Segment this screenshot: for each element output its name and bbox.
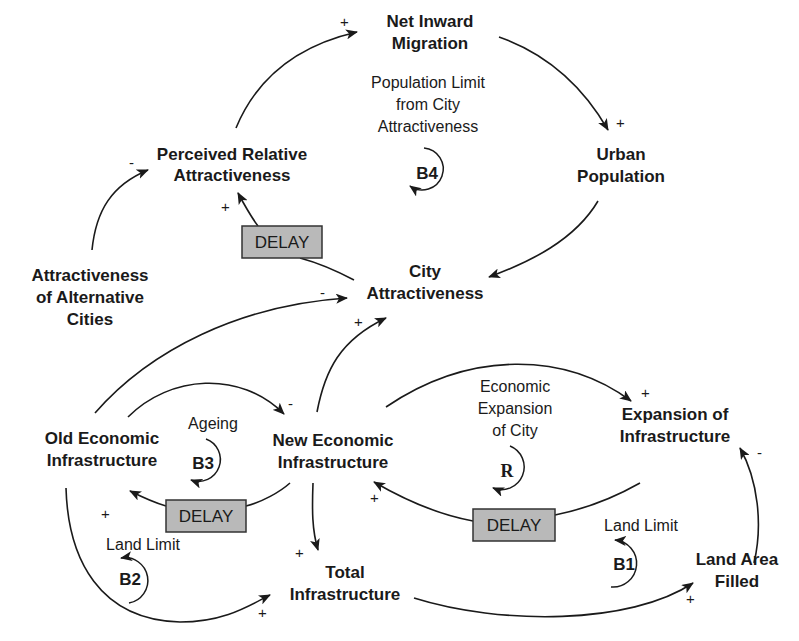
- link-new-econ-to-total: [313, 483, 318, 550]
- link-delay-to-old-econ: [130, 491, 166, 506]
- link-new-econ-to-city-attractiveness: [317, 318, 386, 412]
- loop-b1: Land Limit B1: [604, 517, 678, 587]
- link-expansion-to-delay: [555, 483, 640, 515]
- svg-text:Economic: Economic: [480, 378, 550, 395]
- link-urban-population-to-city-attractiveness: [489, 201, 598, 277]
- node-expansion-of-infrastructure: Expansion of Infrastructure: [620, 405, 731, 446]
- polarity-delay-to-old-econ: +: [101, 505, 110, 522]
- svg-text:of Alternative: of Alternative: [36, 288, 144, 307]
- svg-text:Filled: Filled: [715, 572, 759, 591]
- node-attractiveness-of-alternative-cities: Attractiveness of Alternative Cities: [31, 266, 148, 329]
- node-urban-population: Urban Population: [577, 145, 665, 186]
- link-alternative-cities-to-perceived: [92, 170, 148, 250]
- svg-text:Cities: Cities: [67, 310, 113, 329]
- svg-text:from City: from City: [396, 96, 460, 113]
- svg-text:Land Limit: Land Limit: [106, 536, 180, 553]
- polarity-new-econ-to-total: +: [295, 544, 304, 561]
- svg-text:Infrastructure: Infrastructure: [290, 585, 401, 604]
- delay-label: DELAY: [179, 507, 234, 526]
- svg-text:New Economic: New Economic: [273, 431, 394, 450]
- svg-text:Attractiveness: Attractiveness: [173, 166, 290, 185]
- svg-text:Ageing: Ageing: [188, 415, 238, 432]
- svg-text:Infrastructure: Infrastructure: [278, 453, 389, 472]
- svg-text:B3: B3: [192, 454, 214, 473]
- delay-box-expansion-to-new-econ: DELAY: [473, 509, 555, 541]
- link-old-econ-to-city-attractiveness: [95, 298, 347, 413]
- svg-text:of City: of City: [492, 422, 537, 439]
- link-land-area-to-expansion: [740, 448, 758, 563]
- loop-r: Economic Expansion of City R: [478, 378, 553, 490]
- svg-text:Land Area: Land Area: [696, 550, 779, 569]
- link-delay-to-new-econ: [374, 482, 473, 521]
- causal-loop-diagram: + + + - - + - + + + + + + - DELAY DELAY …: [0, 0, 799, 641]
- polarity-land-to-expansion: -: [757, 444, 762, 461]
- link-old-econ-to-new-econ: [128, 383, 284, 417]
- polarity-old-econ-to-city: -: [320, 284, 325, 301]
- svg-text:B2: B2: [119, 570, 141, 589]
- delay-box-city-to-perceived: DELAY: [242, 226, 322, 258]
- polarity-old-econ-to-total: +: [258, 604, 267, 621]
- polarity-new-econ-to-expansion: +: [641, 384, 650, 401]
- polarity-delay-to-perceived: +: [221, 198, 230, 215]
- svg-text:Land Limit: Land Limit: [604, 517, 678, 534]
- svg-text:Attractiveness: Attractiveness: [378, 118, 478, 135]
- link-city-attractiveness-to-delay: [300, 258, 354, 280]
- svg-text:Total: Total: [325, 563, 364, 582]
- loop-b4: Population Limit from City Attractivenes…: [371, 74, 485, 190]
- node-old-economic-infrastructure: Old Economic Infrastructure: [45, 429, 159, 470]
- loop-b2: Land Limit B2: [106, 536, 180, 603]
- svg-text:R: R: [501, 461, 515, 481]
- loop-b3: Ageing B3: [188, 415, 238, 481]
- node-city-attractiveness: City Attractiveness: [366, 262, 483, 303]
- svg-text:Attractiveness: Attractiveness: [366, 284, 483, 303]
- svg-text:Attractiveness: Attractiveness: [31, 266, 148, 285]
- svg-text:Infrastructure: Infrastructure: [47, 451, 158, 470]
- link-perceived-to-migration: [236, 32, 357, 128]
- polarity-perceived-to-migration: +: [340, 13, 349, 30]
- link-delay-to-perceived: [238, 193, 258, 226]
- polarity-alternative-to-perceived: -: [129, 154, 134, 171]
- polarity-migration-to-urban: +: [616, 114, 625, 131]
- node-land-area-filled: Land Area Filled: [696, 550, 779, 591]
- svg-text:Migration: Migration: [392, 34, 469, 53]
- polarity-old-to-new-econ: -: [288, 395, 293, 412]
- node-net-inward-migration: Net Inward Migration: [387, 12, 474, 53]
- svg-text:B1: B1: [613, 555, 635, 574]
- svg-text:Old Economic: Old Economic: [45, 429, 159, 448]
- link-total-to-land-area: [414, 583, 693, 617]
- polarity-new-econ-to-city: +: [354, 313, 363, 330]
- svg-text:City: City: [409, 262, 442, 281]
- svg-text:B4: B4: [416, 164, 438, 183]
- link-migration-to-urban-population: [499, 37, 608, 130]
- svg-text:Perceived Relative: Perceived Relative: [157, 145, 307, 164]
- node-new-economic-infrastructure: New Economic Infrastructure: [273, 431, 394, 472]
- node-total-infrastructure: Total Infrastructure: [290, 563, 401, 604]
- svg-text:Net Inward: Net Inward: [387, 12, 474, 31]
- polarity-total-to-land: +: [686, 590, 695, 607]
- svg-text:Urban: Urban: [596, 145, 645, 164]
- svg-text:Population: Population: [577, 167, 665, 186]
- delay-label: DELAY: [487, 516, 542, 535]
- node-perceived-relative-attractiveness: Perceived Relative Attractiveness: [157, 145, 307, 185]
- svg-text:Infrastructure: Infrastructure: [620, 427, 731, 446]
- svg-text:Expansion of: Expansion of: [622, 405, 729, 424]
- delay-label: DELAY: [255, 233, 310, 252]
- svg-text:Population Limit: Population Limit: [371, 74, 485, 91]
- link-new-econ-to-delay: [246, 483, 290, 506]
- svg-text:Expansion: Expansion: [478, 400, 553, 417]
- delay-box-new-to-old-econ: DELAY: [166, 500, 246, 532]
- polarity-delay-to-new-econ: +: [370, 489, 379, 506]
